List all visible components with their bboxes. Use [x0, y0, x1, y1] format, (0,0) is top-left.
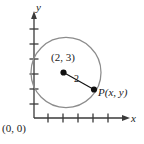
- y-axis-label: y: [36, 2, 41, 13]
- origin-label: (0, 0): [2, 123, 26, 134]
- x-axis-arrow-icon: [122, 115, 130, 121]
- center-coordinates-label: (2, 3): [51, 52, 75, 63]
- point-p-label: P(x, y): [98, 87, 127, 98]
- x-axis-label: x: [131, 113, 136, 124]
- center-point-dot: [60, 69, 66, 75]
- radius-length-label: 2: [74, 74, 79, 84]
- circle-geometry-figure: y x (0, 0) (2, 3) 2 P(x, y): [0, 0, 144, 144]
- p-point-dot: [91, 86, 97, 92]
